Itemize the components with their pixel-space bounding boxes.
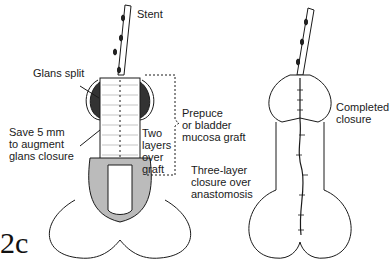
label-two-layers: Two layers over graft [142, 127, 171, 175]
figure-label: 2c [0, 226, 28, 260]
label-stent: Stent [137, 8, 163, 20]
stent-icon [297, 8, 314, 75]
label-glans-split: Glans split [33, 67, 84, 79]
label-graft: Prepuce or bladder mucosa graft [182, 107, 246, 143]
right-drawing [249, 8, 351, 258]
label-completed-closure: Completed closure [336, 101, 389, 125]
label-save-5mm: Save 5 mm to augment glans closure [9, 126, 74, 162]
label-three-layer: Three-layer closure over anastomosis [191, 164, 253, 200]
